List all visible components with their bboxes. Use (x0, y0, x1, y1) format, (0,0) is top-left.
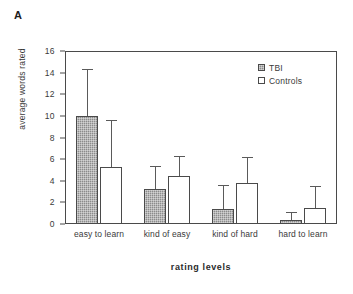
x-tick-label: easy to learn (65, 229, 133, 239)
x-tick-label: kind of easy (133, 229, 201, 239)
error-bar-stem (155, 167, 156, 190)
x-tick-label: hard to learn (269, 229, 337, 239)
error-bar-cap (106, 120, 117, 121)
bar-group (65, 51, 133, 224)
legend-item-label: Controls (269, 76, 302, 86)
bar-group (133, 51, 201, 224)
legend-item-label: TBI (269, 63, 283, 73)
y-tick-label: 16 (45, 46, 55, 56)
error-bar-stem (111, 121, 112, 166)
chart-legend: TBIControls (258, 61, 302, 87)
y-tick-label: 0 (50, 219, 55, 229)
error-bar-stem (87, 70, 88, 115)
error-bar-cap (310, 186, 321, 187)
y-axis-title: average words rated (17, 19, 27, 159)
figure-panel-a: A 0246810121416 average words rated easy… (0, 0, 353, 294)
bar-tbi (76, 116, 98, 224)
bar-tbi (212, 209, 234, 224)
y-tick-label: 4 (50, 176, 55, 186)
bar-tbi (144, 189, 166, 224)
bar-controls (100, 167, 122, 224)
y-axis: 0246810121416 (0, 0, 65, 294)
bar-controls (304, 208, 326, 224)
bar-tbi (280, 220, 302, 224)
bar-controls (236, 183, 258, 224)
error-bar-cap (286, 212, 297, 213)
error-bar-stem (291, 213, 292, 219)
legend-item: TBI (258, 61, 302, 74)
error-bar-cap (218, 185, 229, 186)
error-bar-stem (247, 158, 248, 183)
x-axis-title: rating levels (65, 262, 337, 272)
error-bar-stem (179, 157, 180, 176)
open-white-square-icon (258, 77, 265, 84)
error-bar-stem (223, 186, 224, 209)
y-tick-label: 10 (45, 111, 55, 121)
y-tick-label: 6 (50, 154, 55, 164)
error-bar-cap (242, 157, 253, 158)
y-tick-label: 8 (50, 133, 55, 143)
error-bar-cap (82, 69, 93, 70)
y-tick-label: 12 (45, 89, 55, 99)
legend-item: Controls (258, 74, 302, 87)
x-axis: easy to learnkind of easykind of hardhar… (65, 229, 337, 245)
bar-controls (168, 176, 190, 224)
error-bar-cap (174, 156, 185, 157)
x-tick-label: kind of hard (201, 229, 269, 239)
y-tick-label: 2 (50, 197, 55, 207)
error-bar-cap (150, 166, 161, 167)
y-tick-label: 14 (45, 68, 55, 78)
filled-gray-square-icon (258, 64, 265, 71)
error-bar-stem (315, 187, 316, 208)
